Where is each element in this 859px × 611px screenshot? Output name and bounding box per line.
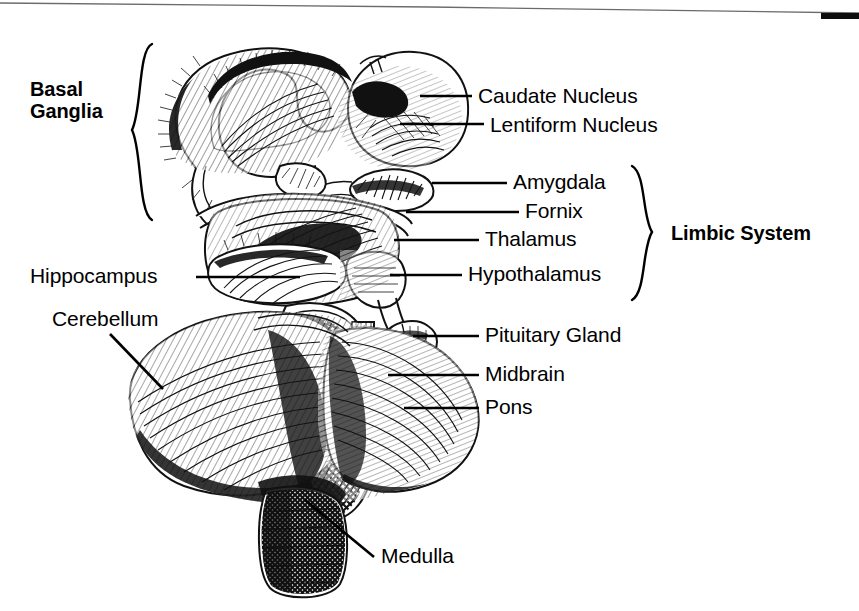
callout-label-hippocampus: Hippocampus <box>30 265 157 286</box>
callout-label-amygdala: Amygdala <box>513 171 606 192</box>
callout-label-caudate-nucleus: Caudate Nucleus <box>478 85 638 106</box>
basal-ganglia-brace <box>132 44 152 220</box>
callout-label-midbrain: Midbrain <box>485 363 565 384</box>
group-label-limbic-system: Limbic System <box>671 223 811 243</box>
callout-label-medulla: Medulla <box>381 545 454 566</box>
callout-label-fornix: Fornix <box>525 200 583 221</box>
scan-artifacts <box>0 3 859 19</box>
callout-label-pituitary-gland: Pituitary Gland <box>485 324 621 345</box>
callout-label-thalamus: Thalamus <box>485 228 576 249</box>
group-label-basal-ganglia: Basal Ganglia <box>30 78 103 123</box>
uncus-structure <box>276 163 326 198</box>
brain-anatomy-figure: Basal Ganglia Limbic System Caudate Nucl… <box>0 0 859 611</box>
group-label-basal-ganglia-line2: Ganglia <box>30 100 103 122</box>
black-register-bar <box>821 13 859 19</box>
callout-label-lentiform-nucleus: Lentiform Nucleus <box>490 114 658 135</box>
limbic-system-brace <box>632 166 652 300</box>
lentiform-nucleus-structure <box>336 50 476 170</box>
callout-label-cerebellum: Cerebellum <box>52 308 158 329</box>
group-label-basal-ganglia-line1: Basal <box>30 78 103 100</box>
medulla-structure <box>254 475 354 606</box>
callout-label-hypothalamus: Hypothalamus <box>468 263 601 284</box>
callout-label-pons: Pons <box>485 396 532 417</box>
brain-illustration <box>0 0 859 611</box>
